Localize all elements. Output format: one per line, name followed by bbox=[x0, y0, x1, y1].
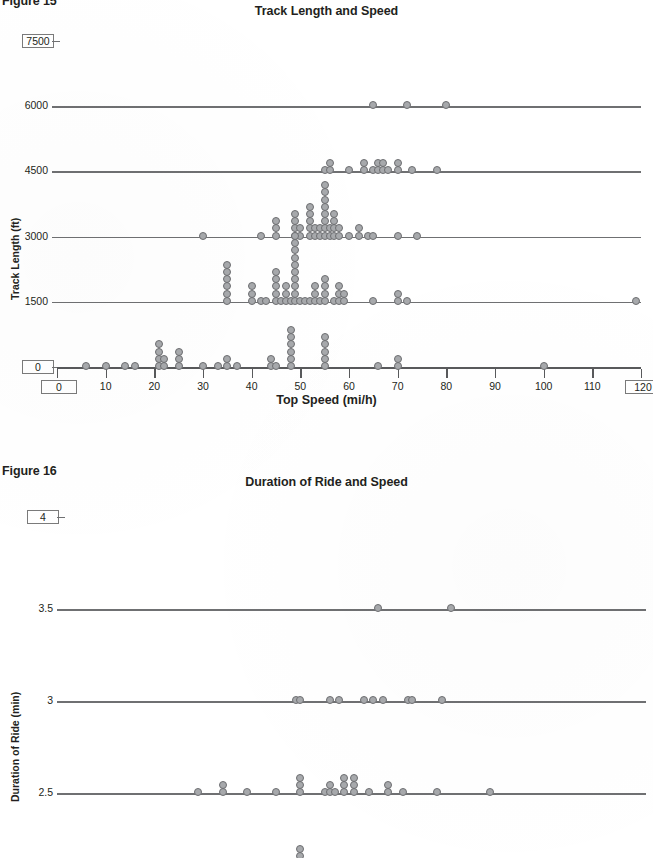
category-row-line bbox=[62, 609, 646, 610]
data-point bbox=[540, 362, 548, 370]
data-point bbox=[291, 282, 299, 290]
y-tick-label: 7500 bbox=[22, 34, 54, 48]
data-point bbox=[223, 355, 231, 363]
data-point bbox=[326, 159, 334, 167]
data-point bbox=[326, 166, 334, 174]
data-point bbox=[326, 696, 334, 704]
y-tick-label: 4500 bbox=[8, 164, 48, 176]
category-row-line bbox=[62, 701, 646, 702]
data-point bbox=[345, 166, 353, 174]
y-tick-mark bbox=[52, 302, 60, 303]
x-tick-mark bbox=[57, 369, 58, 378]
y-tick-mark bbox=[52, 106, 60, 107]
data-point bbox=[272, 217, 280, 225]
data-point bbox=[340, 781, 348, 789]
data-point bbox=[340, 774, 348, 782]
data-point bbox=[199, 362, 207, 370]
data-point bbox=[438, 696, 446, 704]
data-point bbox=[262, 297, 270, 305]
data-point bbox=[287, 340, 295, 348]
x-tick-label: 90 bbox=[479, 380, 511, 392]
data-point bbox=[369, 101, 377, 109]
data-point bbox=[233, 362, 241, 370]
data-point bbox=[360, 696, 368, 704]
data-point bbox=[384, 781, 392, 789]
data-point bbox=[369, 696, 377, 704]
data-point bbox=[365, 788, 373, 796]
data-point bbox=[321, 188, 329, 196]
x-tick-label: 100 bbox=[528, 380, 560, 392]
data-point bbox=[175, 355, 183, 363]
x-tick-label: 20 bbox=[138, 380, 170, 392]
data-point bbox=[321, 275, 329, 283]
data-point bbox=[291, 239, 299, 247]
data-point bbox=[360, 166, 368, 174]
data-point bbox=[175, 348, 183, 356]
data-point bbox=[394, 362, 402, 370]
data-point bbox=[296, 224, 304, 232]
data-point bbox=[403, 101, 411, 109]
data-point bbox=[394, 297, 402, 305]
data-point bbox=[272, 362, 280, 370]
data-point bbox=[321, 362, 329, 370]
data-point bbox=[321, 348, 329, 356]
data-point bbox=[442, 101, 450, 109]
x-tick-mark bbox=[446, 369, 447, 378]
y-tick-label: 2.5 bbox=[13, 786, 53, 798]
figure-16-block: Figure 16 Duration of Ride and Speed Dur… bbox=[0, 430, 653, 858]
x-tick-label: 70 bbox=[382, 380, 414, 392]
data-point bbox=[321, 196, 329, 204]
data-point bbox=[102, 362, 110, 370]
data-point bbox=[374, 604, 382, 612]
x-tick-mark bbox=[544, 369, 545, 378]
data-point bbox=[331, 788, 339, 796]
data-point bbox=[379, 696, 387, 704]
data-point bbox=[287, 362, 295, 370]
data-point bbox=[272, 282, 280, 290]
data-point bbox=[219, 788, 227, 796]
y-tick-label: 3 bbox=[13, 694, 53, 706]
data-point bbox=[350, 781, 358, 789]
category-row-line bbox=[57, 106, 641, 107]
x-tick-mark bbox=[495, 369, 496, 378]
data-point bbox=[257, 232, 265, 240]
y-tick-label: 6000 bbox=[8, 99, 48, 111]
data-point bbox=[335, 224, 343, 232]
data-point bbox=[223, 261, 231, 269]
y-tick-mark bbox=[57, 609, 65, 610]
y-tick-mark bbox=[52, 171, 60, 172]
category-row-line bbox=[57, 302, 641, 303]
data-point bbox=[335, 696, 343, 704]
data-point bbox=[369, 297, 377, 305]
data-point bbox=[384, 788, 392, 796]
data-point bbox=[321, 181, 329, 189]
data-point bbox=[394, 159, 402, 167]
data-point bbox=[248, 282, 256, 290]
data-point bbox=[272, 275, 280, 283]
y-tick-mark bbox=[57, 517, 65, 518]
data-point bbox=[291, 275, 299, 283]
data-point bbox=[632, 297, 640, 305]
data-point bbox=[433, 788, 441, 796]
x-tick-label: 40 bbox=[236, 380, 268, 392]
data-point bbox=[321, 297, 329, 305]
data-point bbox=[321, 340, 329, 348]
x-tick-mark bbox=[252, 369, 253, 378]
data-point bbox=[223, 297, 231, 305]
data-point bbox=[350, 788, 358, 796]
figure-15-block: Figure 15 Track Length and Speed Track L… bbox=[0, 0, 653, 430]
data-point bbox=[306, 203, 314, 211]
x-tick-label: 60 bbox=[333, 380, 365, 392]
data-point bbox=[350, 774, 358, 782]
y-tick-mark bbox=[52, 41, 60, 42]
y-tick-label: 3.5 bbox=[13, 602, 53, 614]
data-point bbox=[223, 275, 231, 283]
data-point bbox=[296, 774, 304, 782]
x-tick-mark bbox=[106, 369, 107, 378]
data-point bbox=[287, 333, 295, 341]
data-point bbox=[291, 268, 299, 276]
x-tick-mark bbox=[349, 369, 350, 378]
data-point bbox=[394, 232, 402, 240]
data-point bbox=[272, 268, 280, 276]
y-tick-mark bbox=[52, 237, 60, 238]
